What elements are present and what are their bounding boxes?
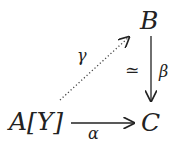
label-gamma: γ [77, 48, 87, 64]
arrow-gamma [60, 37, 129, 100]
node-b: B [140, 8, 158, 33]
label-beta: β [159, 64, 168, 80]
node-c: C [141, 110, 160, 135]
label-alpha: α [88, 126, 99, 142]
label-isomorphism: ≃ [125, 62, 139, 79]
node-a-y: A[Y] [9, 109, 63, 134]
